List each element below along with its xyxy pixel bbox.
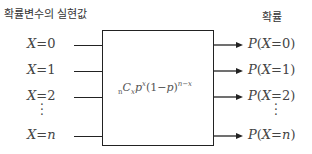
input-label-xn: X=n — [27, 127, 56, 142]
header-realized-values: 확률변수의 실현값 — [4, 5, 88, 21]
header-probability: 확률 — [262, 8, 282, 24]
output-arrow-1 — [213, 66, 243, 76]
output-label-p1: P(X=1) — [248, 62, 295, 77]
output-ellipsis: ··· — [274, 103, 278, 118]
output-label-p0: P(X=0) — [248, 36, 295, 51]
output-arrow-2 — [213, 92, 243, 102]
binomial-distribution-diagram: 확률변수의 실현값 확률 X=0 X=1 X=2 ··· X=n nCxpx(1… — [0, 0, 312, 154]
input-ellipsis: ··· — [40, 103, 44, 118]
binomial-formula: nCxpx(1−p)n−x — [118, 80, 192, 96]
input-label-x0: X=0 — [27, 36, 55, 51]
input-line-xn — [74, 136, 103, 137]
output-label-pn: P(X=n) — [248, 127, 295, 142]
input-line-x2 — [74, 97, 103, 98]
output-label-p2: P(X=2) — [248, 88, 295, 103]
input-line-x0 — [74, 45, 103, 46]
output-arrow-n — [213, 131, 243, 141]
input-label-x1: X=1 — [27, 62, 55, 77]
input-line-x1 — [74, 71, 103, 72]
output-arrow-0 — [213, 40, 243, 50]
